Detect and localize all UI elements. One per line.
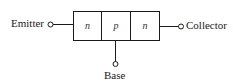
region-emitter-n: n [74,11,101,40]
base-label: Base [104,70,125,81]
base-terminal-icon [113,62,118,67]
region-base-p: p [102,11,130,40]
npn-transistor-diagram: n p n Emitter Collector Base [0,0,239,82]
collector-terminal-icon [179,24,184,29]
emitter-label: Emitter [11,18,44,29]
emitter-terminal-icon [48,22,53,27]
region-collector-n: n [131,11,159,40]
collector-label: Collector [186,20,227,31]
